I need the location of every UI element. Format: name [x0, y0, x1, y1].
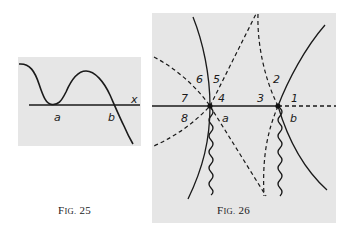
fig26-region-8: 8 — [181, 112, 188, 125]
fig26-region-6: 6 — [196, 73, 203, 86]
fig26-region-2: 2 — [273, 73, 280, 86]
fig25-point-a-label: a — [54, 111, 61, 124]
fig26-region-3: 3 — [257, 92, 264, 105]
fig26-point-a-dot — [207, 103, 212, 108]
fig25-point-b-label: b — [108, 111, 115, 124]
fig26-panel — [152, 13, 336, 223]
figure-26: a b 1 2 3 4 5 6 7 8 — [152, 13, 336, 223]
fig26-caption: FIG. 26 — [217, 204, 250, 216]
fig26-caption-smallcaps: IG. — [223, 206, 235, 216]
fig25-x-label: x — [130, 93, 138, 106]
fig25-caption-number: 25 — [79, 204, 91, 216]
fig25-caption: FIG. 25 — [58, 204, 91, 216]
fig26-region-4: 4 — [218, 92, 225, 105]
fig26-point-b-dot — [275, 103, 280, 108]
fig26-point-b-label: b — [290, 112, 297, 125]
fig26-point-a-label: a — [222, 112, 229, 125]
fig26-region-7: 7 — [181, 92, 188, 105]
fig25-caption-smallcaps: IG. — [64, 206, 76, 216]
fig26-region-5: 5 — [213, 73, 220, 86]
fig26-caption-number: 26 — [238, 204, 250, 216]
fig26-region-1: 1 — [291, 92, 298, 105]
fig25-panel — [18, 57, 141, 146]
figures-canvas: x a b a b 1 2 3 4 5 6 7 — [0, 0, 352, 236]
figure-25: x a b — [18, 57, 141, 146]
